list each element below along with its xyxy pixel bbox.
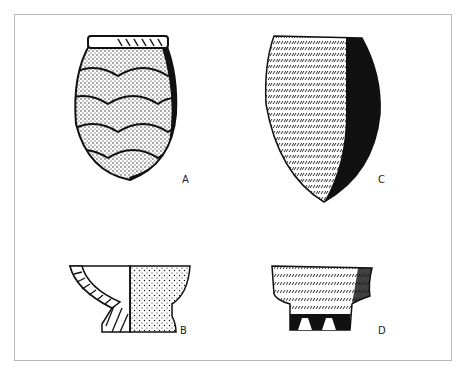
vessel-a-drawing — [68, 34, 188, 184]
label-c: C — [378, 174, 385, 185]
vessel-c-drawing — [262, 34, 386, 204]
label-d: D — [378, 325, 386, 336]
vessel-b-drawing — [68, 264, 198, 336]
vessel-d-drawing — [268, 264, 378, 334]
label-a: A — [182, 174, 189, 185]
label-b: B — [180, 325, 187, 336]
